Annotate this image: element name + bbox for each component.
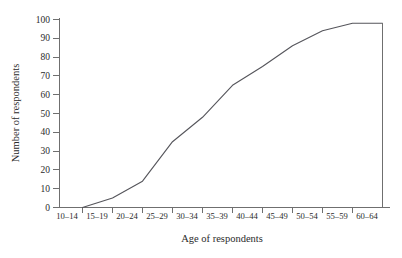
x-tick-label: 45–49 — [266, 211, 287, 221]
y-tick-labels: 0 10 20 30 40 50 60 70 80 90 100 — [36, 15, 51, 213]
y-tick-label: 60 — [41, 90, 51, 100]
y-axis-title: Number of respondents — [10, 64, 21, 163]
y-tick-label: 70 — [41, 71, 51, 81]
x-tick-label: 40–44 — [236, 211, 258, 221]
y-tick-label: 90 — [41, 33, 51, 43]
x-tick-label: 35–39 — [206, 211, 227, 221]
y-tick-label: 0 — [45, 203, 50, 213]
x-tick-label: 25–29 — [146, 211, 167, 221]
x-tick-label: 60–64 — [356, 211, 378, 221]
y-tick-label: 20 — [41, 165, 51, 175]
y-tick-label: 80 — [41, 52, 51, 62]
y-tick-marks — [53, 20, 60, 208]
x-tick-label: 55–59 — [326, 211, 347, 221]
x-tick-label: 10–14 — [56, 211, 78, 221]
y-tick-label: 50 — [41, 109, 51, 119]
cumulative-frequency-curve — [83, 23, 383, 207]
x-tick-labels: 10–14 15–19 20–24 25–29 30–34 35–39 40–4… — [56, 211, 378, 221]
y-tick-label: 40 — [41, 127, 51, 137]
cumulative-frequency-chart: 0 10 20 30 40 50 60 70 80 90 100 — [0, 0, 402, 258]
x-axis-title: Age of respondents — [181, 233, 263, 244]
y-tick-label: 10 — [41, 184, 51, 194]
y-tick-label: 30 — [41, 146, 51, 156]
chart-canvas: 0 10 20 30 40 50 60 70 80 90 100 — [0, 0, 402, 258]
x-tick-label: 20–24 — [116, 211, 138, 221]
x-tick-label: 50–54 — [296, 211, 318, 221]
x-tick-label: 15–19 — [86, 211, 107, 221]
y-tick-label: 100 — [36, 15, 51, 25]
x-tick-label: 30–34 — [176, 211, 198, 221]
